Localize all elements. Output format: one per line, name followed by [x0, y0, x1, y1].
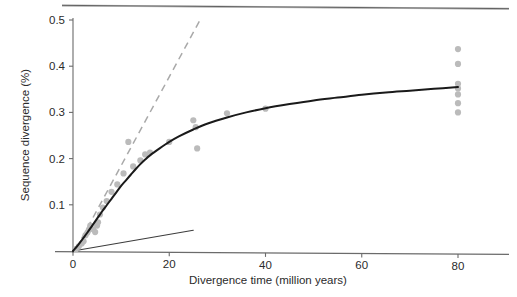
y-tick-label: 0.1 [49, 199, 65, 211]
low-rate-reference-line [73, 230, 193, 251]
y-tick-label: 0.2 [49, 153, 65, 165]
y-tick-label: 0.5 [49, 14, 65, 26]
scatter-point [455, 100, 461, 106]
y-tick-label: 0.4 [49, 60, 66, 72]
y-axis: 0.10.20.30.40.5 [49, 14, 73, 253]
scatter-point [120, 170, 126, 176]
y-tick-label: 0.3 [49, 106, 65, 118]
scatter-point [455, 91, 461, 97]
x-tick-label: 80 [452, 260, 465, 272]
scatter-point [194, 145, 200, 151]
chart-figure: 0.10.20.30.40.5 020406080 Divergence tim… [0, 0, 517, 297]
scatter-point [125, 139, 131, 145]
series-layer [73, 20, 461, 252]
scatter-point [92, 229, 98, 235]
x-axis-tick-labels: 020406080 [70, 258, 465, 272]
scatter-point [224, 110, 230, 116]
scatter-point [455, 46, 461, 52]
x-tick-label: 20 [163, 258, 176, 270]
scatter-point [455, 61, 461, 67]
scatter-plot-canvas: 0.10.20.30.40.5 020406080 Divergence tim… [0, 0, 517, 297]
y-axis-ticks [69, 20, 73, 205]
x-tick-label: 40 [259, 259, 272, 271]
x-axis: 020406080 [55, 252, 509, 272]
y-axis-tick-labels: 0.10.20.30.40.5 [49, 14, 66, 211]
x-tick-label: 60 [355, 259, 368, 271]
scatter-point-group [73, 46, 461, 252]
x-tick-label: 0 [70, 258, 76, 270]
y-axis-title: Sequence divergence (%) [19, 69, 31, 201]
x-axis-line [55, 252, 509, 255]
scatter-point [455, 109, 461, 115]
scatter-point [108, 189, 114, 195]
x-axis-title: Divergence time (million years) [189, 274, 347, 286]
scatter-point [190, 117, 196, 123]
